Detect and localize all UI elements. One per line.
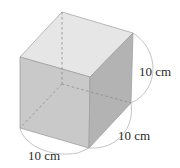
depth-label: 10 cm bbox=[118, 128, 150, 143]
height-label: 10 cm bbox=[139, 64, 171, 79]
width-label: 10 cm bbox=[28, 148, 60, 163]
cube-diagram: 10 cm 10 cm 10 cm bbox=[0, 0, 180, 168]
